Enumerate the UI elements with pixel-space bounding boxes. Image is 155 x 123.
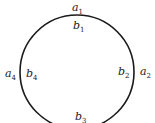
label-b4: b4 [26, 67, 38, 82]
label-b1: b1 [73, 19, 85, 34]
label-a1: a1 [72, 1, 83, 16]
label-b3: b3 [75, 110, 87, 123]
label-a2: a2 [140, 65, 151, 80]
circle-diagram: a1b1a2b2a4b4b3 [0, 0, 155, 123]
label-b2: b2 [118, 65, 130, 80]
label-a4: a4 [5, 67, 17, 82]
labels: a1b1a2b2a4b4b3 [5, 1, 151, 123]
